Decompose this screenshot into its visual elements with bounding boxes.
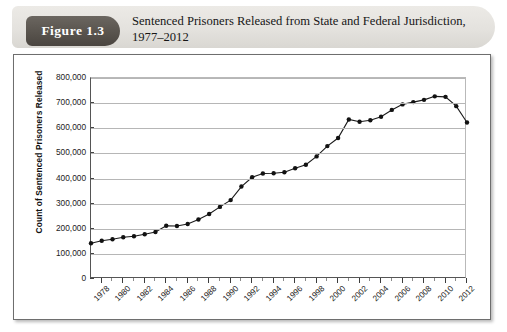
figure-title: Sentenced Prisoners Released from State … xyxy=(132,14,500,45)
data-point xyxy=(110,237,114,241)
data-point xyxy=(164,224,168,228)
x-tick-label: 1994 xyxy=(264,284,283,303)
data-point xyxy=(368,118,372,122)
x-tick-major xyxy=(359,278,360,283)
data-point xyxy=(357,120,361,124)
data-point xyxy=(443,95,447,99)
data-point xyxy=(89,241,93,245)
data-point xyxy=(282,170,286,174)
data-point xyxy=(336,136,340,140)
x-tick-major xyxy=(445,278,446,283)
gridline xyxy=(91,153,465,154)
x-tick-label: 1990 xyxy=(221,284,240,303)
x-tick-minor xyxy=(348,278,349,281)
y-tick-label: 0 xyxy=(26,273,86,283)
x-tick-label: 1996 xyxy=(285,284,304,303)
data-point xyxy=(433,94,437,98)
x-tick-major xyxy=(402,278,403,283)
data-point xyxy=(304,162,308,166)
data-point xyxy=(271,171,275,175)
data-point xyxy=(100,239,104,243)
gridline xyxy=(91,78,465,79)
x-tick-minor xyxy=(412,278,413,281)
x-tick-major xyxy=(230,278,231,283)
x-tick-label: 2000 xyxy=(328,284,347,303)
x-tick-major xyxy=(337,278,338,283)
x-tick-minor xyxy=(455,278,456,281)
x-tick-major xyxy=(144,278,145,283)
y-tick-label: 400,000 xyxy=(26,173,86,183)
x-tick-label: 1986 xyxy=(178,284,197,303)
series-line xyxy=(91,96,467,243)
y-tick-label: 100,000 xyxy=(26,248,86,258)
y-tick-label: 500,000 xyxy=(26,147,86,157)
x-tick-label: 1988 xyxy=(199,284,218,303)
x-tick-label: 2004 xyxy=(371,284,390,303)
y-tick-label: 600,000 xyxy=(26,122,86,132)
figure-title-line-1: Sentenced Prisoners Released from State … xyxy=(132,14,500,30)
data-point xyxy=(422,98,426,102)
x-tick-label: 2010 xyxy=(436,284,455,303)
gridline xyxy=(91,204,465,205)
x-tick-minor xyxy=(391,278,392,281)
figure-root: Figure 1.3 Sentenced Prisoners Released … xyxy=(0,0,507,332)
x-tick-label: 1980 xyxy=(113,284,132,303)
x-tick-minor xyxy=(133,278,134,281)
gridline xyxy=(91,254,465,255)
data-point xyxy=(185,222,189,226)
data-point xyxy=(314,154,318,158)
data-point xyxy=(132,234,136,238)
data-point xyxy=(207,212,211,216)
data-point xyxy=(153,230,157,234)
data-point xyxy=(454,104,458,108)
x-tick-major xyxy=(273,278,274,283)
y-axis-ticks: 800,000700,000600,000500,000400,000300,0… xyxy=(20,77,86,278)
x-tick-major xyxy=(423,278,424,283)
x-tick-label: 2012 xyxy=(457,284,476,303)
y-tick-label: 800,000 xyxy=(26,72,86,82)
gridline xyxy=(91,103,465,104)
figure-number-badge: Figure 1.3 xyxy=(26,16,120,46)
x-axis-labels: 1978198019821984198619881990199219941996… xyxy=(90,284,476,320)
figure-title-line-2: 1977–2012 xyxy=(132,30,500,46)
x-tick-minor xyxy=(283,278,284,281)
data-point xyxy=(390,108,394,112)
x-tick-minor xyxy=(434,278,435,281)
x-tick-minor xyxy=(154,278,155,281)
figure-header-banner: Figure 1.3 Sentenced Prisoners Released … xyxy=(12,6,495,48)
data-point xyxy=(465,120,469,124)
gridline xyxy=(91,179,465,180)
x-tick-major xyxy=(101,278,102,283)
x-tick-minor xyxy=(111,278,112,281)
x-tick-major xyxy=(122,278,123,283)
data-point xyxy=(218,205,222,209)
x-tick-label: 2006 xyxy=(393,284,412,303)
gridline xyxy=(91,229,465,230)
x-tick-label: 1998 xyxy=(307,284,326,303)
x-tick-major xyxy=(294,278,295,283)
x-tick-major xyxy=(208,278,209,283)
y-tick-label: 200,000 xyxy=(26,223,86,233)
x-tick-major xyxy=(251,278,252,283)
y-tick-label: 700,000 xyxy=(26,97,86,107)
x-tick-label: 1992 xyxy=(242,284,261,303)
plot-area xyxy=(90,77,466,278)
y-tick-label: 300,000 xyxy=(26,198,86,208)
chart-frame: Count of Sentenced Prisoners Released 80… xyxy=(13,54,491,320)
data-point xyxy=(121,235,125,239)
x-tick-label: 2008 xyxy=(414,284,433,303)
x-tick-label: 2002 xyxy=(350,284,369,303)
x-tick-minor xyxy=(326,278,327,281)
data-point xyxy=(347,117,351,121)
x-tick-minor xyxy=(219,278,220,281)
x-tick-label: 1984 xyxy=(156,284,175,303)
data-point xyxy=(379,114,383,118)
data-point xyxy=(196,217,200,221)
x-tick-major xyxy=(165,278,166,283)
data-point xyxy=(293,166,297,170)
data-point xyxy=(228,198,232,202)
data-point xyxy=(239,184,243,188)
x-tick-major xyxy=(316,278,317,283)
x-tick-major xyxy=(380,278,381,283)
x-tick-minor xyxy=(369,278,370,281)
